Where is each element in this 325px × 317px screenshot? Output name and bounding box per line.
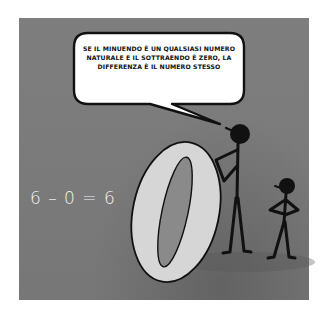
speech-bubble-text: SE IL MINUENDO È UN QUALSIASI NUMERO NAT… <box>80 44 238 72</box>
short-stick-figure <box>268 178 298 258</box>
equation-label: 6 – 0 = 6 <box>30 188 122 208</box>
tall-stick-figure <box>216 124 251 253</box>
